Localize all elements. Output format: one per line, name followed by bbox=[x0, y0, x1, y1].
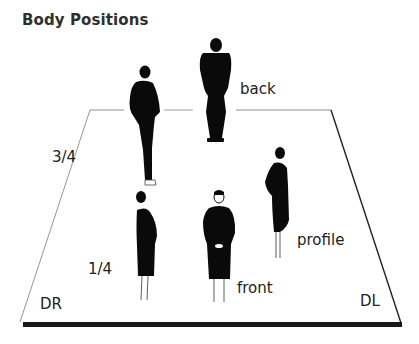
label-downstage-left: DL bbox=[360, 294, 380, 309]
label-three-quarter: 3/4 bbox=[52, 150, 76, 165]
label-downstage-right: DR bbox=[40, 297, 62, 312]
figure-front-icon bbox=[203, 190, 235, 302]
figure-one-quarter-icon bbox=[136, 191, 157, 300]
label-profile: profile bbox=[297, 233, 344, 248]
label-one-quarter: 1/4 bbox=[88, 262, 112, 277]
figure-back-icon bbox=[200, 38, 231, 142]
stage-front-edge bbox=[23, 322, 402, 327]
label-front: front bbox=[237, 281, 273, 296]
stage-diagram bbox=[0, 0, 419, 344]
figure-profile-icon bbox=[265, 147, 289, 258]
figure-three-quarter-icon bbox=[130, 66, 161, 186]
label-back: back bbox=[240, 82, 276, 97]
